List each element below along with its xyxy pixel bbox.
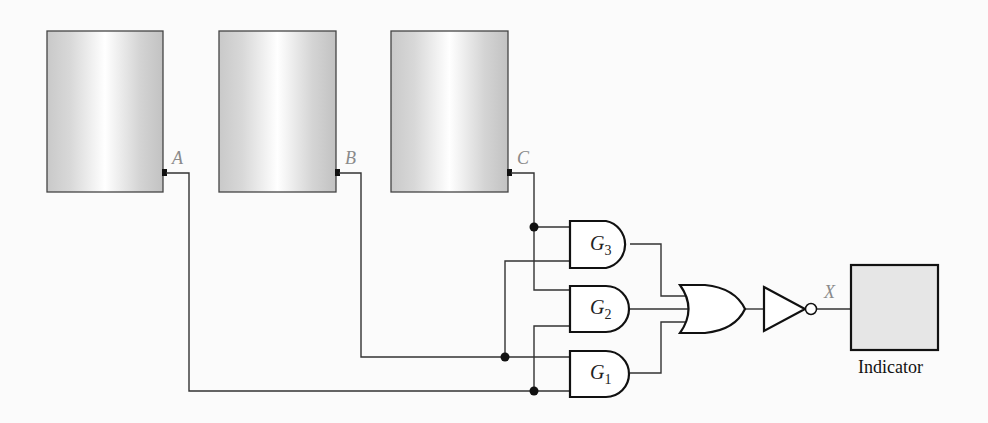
junction-b [501,353,510,362]
junction-a [530,387,539,396]
wire-a [166,173,570,391]
inverter-bubble [806,304,817,315]
not-gate [764,287,805,331]
label-a: A [172,148,183,169]
junction-c [530,223,539,232]
label-x: X [824,282,835,303]
indicator-box [851,265,938,350]
source-box-c [391,31,512,192]
gate-label-g1: G1 [590,361,611,388]
or-gate [680,285,745,333]
label-c: C [517,148,529,169]
source-box-a [47,31,167,192]
wire-c [511,173,570,290]
label-b: B [345,148,356,169]
wire-b-to-g3 [505,261,570,357]
wire-a-to-g2 [534,326,570,391]
wire-b [339,173,570,357]
gate-label-g2: G2 [590,296,611,323]
circuit-canvas [0,0,988,423]
junctions [501,223,539,396]
indicator-label: Indicator [858,357,923,378]
source-box-b [219,31,340,192]
gate-label-g3: G3 [590,232,611,259]
